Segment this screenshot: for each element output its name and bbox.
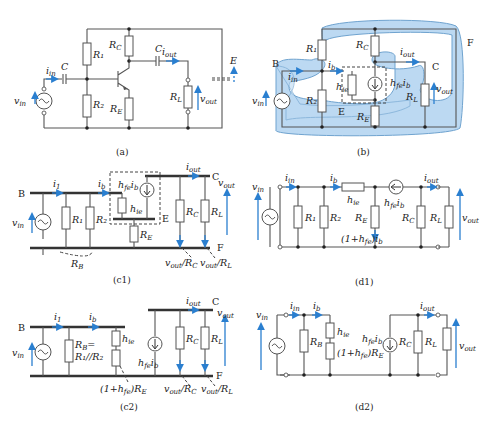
label-iout: iout (186, 161, 201, 174)
label-vout: vout (200, 93, 217, 106)
label-iout: iout (424, 172, 439, 185)
node-f: F (467, 37, 474, 48)
node-f: F (217, 242, 224, 253)
label-re-eq: (1+hfe)RE (100, 383, 147, 396)
node-b: B (272, 58, 279, 69)
label-ib: ib (89, 311, 97, 324)
panel-c2: B C F i1 ib iout RB= R₁//R₂ hie hfeib (1… (12, 295, 234, 412)
label-i1: i1 (53, 178, 61, 191)
label-rc: RC (108, 39, 122, 52)
label-hie: hie (347, 194, 360, 207)
label-hie: hie (336, 81, 349, 94)
label-ib: ib (328, 59, 336, 72)
label-vin: vin (252, 95, 265, 108)
label-rl: RL (169, 91, 182, 104)
label-re: RE (109, 103, 122, 116)
label-r2: R₂ (305, 95, 317, 106)
label-rb: RB (70, 258, 83, 271)
label-ib: ib (313, 300, 321, 313)
caption-b: (b) (357, 147, 370, 157)
circuit-figure: R₁ R₂ RC RE RL C C iin iout vin vout E (… (0, 0, 492, 426)
label-rb: RB (309, 336, 322, 349)
label-vin: vin (12, 217, 25, 230)
label-ie: (1+hfe)ib (341, 233, 383, 246)
label-rc: RC (355, 39, 369, 52)
caption-d1: (d1) (355, 277, 374, 287)
label-r1: R₁ (92, 49, 104, 60)
label-rc: RC (401, 212, 415, 225)
label-vout: vout (436, 83, 453, 96)
node-b: B (18, 322, 25, 333)
label-r2: R₂ (329, 212, 341, 223)
node-f: F (216, 370, 223, 381)
label-iout: iout (162, 46, 177, 59)
label-vin: vin (256, 309, 269, 322)
node-b: B (18, 188, 25, 199)
label-vout-rl: vout/RL (201, 383, 233, 396)
label-c-in: C (61, 61, 69, 72)
label-vin: vin (12, 347, 25, 360)
label-vout-rc: vout/RC (165, 257, 198, 270)
label-rc: RC (185, 333, 199, 346)
caption-c1: (c1) (113, 275, 131, 285)
label-vout: vout (217, 307, 234, 320)
label-i1: i1 (54, 311, 62, 324)
label-hie: hie (337, 326, 350, 339)
panel-a: R₁ R₂ RC RE RL C C iin iout vin vout E (… (14, 27, 237, 157)
label-hfeib: hfeib (138, 357, 159, 370)
label-hie: hie (130, 203, 143, 216)
panel-d2: vin iin ib hie RB (1+hfe)RE hfeib RC RL … (256, 300, 476, 412)
label-iin: iin (290, 300, 300, 313)
label-rc: RC (185, 206, 199, 219)
caption-d2: (d2) (355, 402, 374, 412)
label-rl: RL (210, 333, 223, 346)
label-r2: R₂ (95, 214, 107, 225)
label-hfeib: hfeib (118, 179, 139, 192)
label-e: E (229, 55, 237, 66)
caption-a: (a) (116, 147, 128, 157)
label-rl: RL (424, 336, 437, 349)
label-vin: vin (252, 181, 265, 194)
label-r1: R₁ (304, 212, 316, 223)
label-re-eq: (1+hfe)RE (337, 347, 384, 360)
label-vout-rl: vout/RL (200, 257, 232, 270)
label-ib: ib (330, 172, 338, 185)
label-hfeib: hfeib (384, 197, 405, 210)
caption-c2: (c2) (120, 402, 138, 412)
label-iin: iin (46, 65, 56, 78)
label-vout: vout (459, 340, 476, 353)
panel-d1: vin iin ib hie hfeib iout R₁ R₂ RE RC RL… (252, 172, 479, 287)
label-r1: R₁ (71, 214, 83, 225)
node-c: C (432, 61, 439, 72)
label-vout: vout (218, 177, 235, 190)
node-c: C (212, 296, 219, 307)
label-re: RE (139, 229, 152, 242)
label-ib: ib (98, 178, 106, 191)
label-r1: R₁ (305, 43, 317, 54)
label-vout-rc: vout/RC (164, 383, 197, 396)
label-re: RE (354, 212, 367, 225)
label-iin: iin (285, 172, 295, 185)
label-vout: vout (462, 212, 479, 225)
label-hfeib: hfeib (362, 333, 383, 346)
label-hie: hie (122, 333, 135, 346)
label-rl: RL (429, 212, 442, 225)
label-r1-par-r2: R₁//R₂ (74, 351, 104, 362)
label-iout: iout (400, 46, 415, 59)
label-iout: iout (186, 295, 201, 308)
label-r2: R₂ (92, 99, 104, 110)
label-iout: iout (420, 300, 435, 313)
label-vin: vin (14, 95, 27, 108)
panel-b: B C E F R₁ R₂ RC RE RL hie hfeib iin ib … (252, 20, 474, 157)
label-rc: RC (398, 336, 412, 349)
label-rl: RL (210, 206, 223, 219)
node-e: E (338, 106, 345, 117)
node-e: E (162, 213, 169, 224)
panel-c1: B C E F i1 ib iout hfeib hie R₁ R₂ RB RE… (12, 161, 235, 285)
